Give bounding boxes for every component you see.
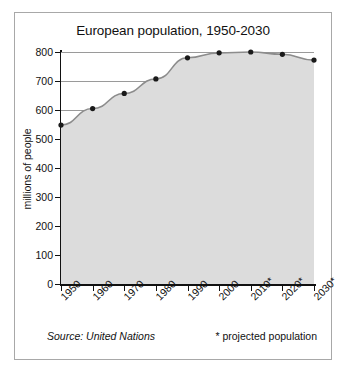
- y-tick-label: 800: [19, 46, 53, 58]
- y-tick-label: 300: [19, 191, 53, 203]
- y-tick-label: 700: [19, 75, 53, 87]
- y-tick-label: 0: [19, 278, 53, 290]
- source-note: Source: United Nations: [47, 330, 155, 342]
- plot-area: [61, 52, 314, 284]
- data-point-1950: [58, 122, 63, 127]
- data-point-1970: [122, 91, 127, 96]
- data-point-2010: [248, 49, 253, 54]
- data-point-1960: [90, 106, 95, 111]
- chart-title: European population, 1950-2030: [15, 23, 331, 38]
- y-tick-label: 600: [19, 104, 53, 116]
- chart-figure: European population, 1950-2030 millions …: [14, 12, 332, 360]
- data-point-1990: [185, 55, 190, 60]
- data-point-2020: [280, 52, 285, 57]
- y-tick-label: 400: [19, 162, 53, 174]
- area-fill: [61, 52, 314, 284]
- y-tick-label: 500: [19, 133, 53, 145]
- y-tick-label: 100: [19, 249, 53, 261]
- population-area-series: [61, 52, 314, 284]
- x-tick-label: 2030*: [311, 275, 339, 303]
- data-point-1980: [153, 76, 158, 81]
- data-point-2000: [217, 50, 222, 55]
- y-tick-mark: [55, 284, 61, 285]
- projection-note: * projected population: [215, 330, 317, 342]
- data-point-2030: [311, 58, 316, 63]
- y-tick-label: 200: [19, 220, 53, 232]
